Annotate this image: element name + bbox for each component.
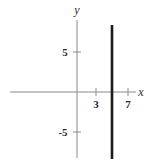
y-tick-label-minus5: -5	[58, 126, 68, 138]
graph-figure: 5 -5 3 7 y x	[0, 0, 146, 165]
coordinate-plane-svg: 5 -5 3 7 y x	[0, 0, 146, 165]
y-axis-label: y	[73, 3, 80, 17]
x-axis-label: x	[137, 85, 144, 99]
y-tick-label-5: 5	[62, 46, 68, 58]
x-tick-label-7: 7	[125, 98, 131, 110]
x-tick-label-3: 3	[93, 98, 99, 110]
